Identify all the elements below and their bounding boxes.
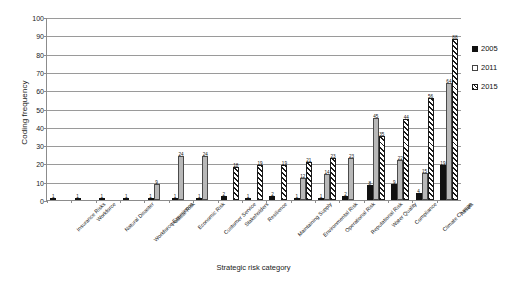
bar-2005: 1 xyxy=(50,198,56,200)
bar-value-label: 2 xyxy=(271,192,274,197)
bar-group: 1 xyxy=(71,18,95,200)
bar-2011: 24 xyxy=(178,156,184,200)
bar-group: 19 xyxy=(144,18,168,200)
y-axis-tick-label: 70 xyxy=(36,69,44,76)
bar-2011: 24 xyxy=(202,156,208,200)
legend-item-label: 2015 xyxy=(481,82,498,91)
bar-value-label: 1 xyxy=(101,194,104,199)
x-axis-category-label: Natural Disaster xyxy=(124,201,156,233)
bar-value-label: 8 xyxy=(369,181,372,186)
bar-group: 223 xyxy=(339,18,363,200)
bar-value-label: 1 xyxy=(125,194,128,199)
bar-value-label: 19 xyxy=(440,161,445,166)
bar-value-label: 1 xyxy=(52,194,55,199)
bar-2015: 56 xyxy=(428,98,434,200)
x-axis-title: Strategic risk category xyxy=(46,263,461,272)
plot-area: 0102030405060708090100 11111912412421811… xyxy=(46,18,461,201)
x-axis-category-label: Assets xyxy=(459,201,475,217)
bar-2015: 21 xyxy=(306,162,312,200)
bar-2015: 35 xyxy=(379,136,385,200)
bar-group: 41556 xyxy=(412,18,436,200)
chart-legend: 200520112015 xyxy=(472,44,528,101)
bar-value-label: 44 xyxy=(404,115,409,120)
bar-value-label: 14 xyxy=(325,170,330,175)
bar-value-label: 35 xyxy=(379,132,384,137)
bar-2015: 44 xyxy=(403,119,409,200)
bar-value-label: 64 xyxy=(446,79,451,84)
bar-2011: 23 xyxy=(348,158,354,200)
bar-value-label: 19 xyxy=(257,161,262,166)
bar-2015: 19 xyxy=(257,165,263,200)
bar-group: 124 xyxy=(193,18,217,200)
bar-value-label: 1 xyxy=(174,194,177,199)
bar-groups: 1111191241242181192191122111423223845359… xyxy=(47,18,461,200)
legend-item-label: 2011 xyxy=(481,63,497,72)
bar-group: 11423 xyxy=(315,18,339,200)
bar-value-label: 18 xyxy=(233,163,238,168)
y-axis-title: Coding frequency xyxy=(20,43,29,183)
bar-2005: 1 xyxy=(245,198,251,200)
bar-group: 1 xyxy=(120,18,144,200)
bar-value-label: 1 xyxy=(247,194,250,199)
bar-group: 124 xyxy=(169,18,193,200)
bar-2005: 2 xyxy=(269,196,275,200)
bar-value-label: 1 xyxy=(149,194,152,199)
bar-group: 84535 xyxy=(364,18,388,200)
y-axis-tick-label: 100 xyxy=(32,15,44,22)
y-axis-tick-label: 30 xyxy=(36,143,44,150)
bar-group: 1 xyxy=(96,18,120,200)
bar-value-label: 1 xyxy=(76,194,79,199)
bar-value-label: 1 xyxy=(198,194,201,199)
bar-2015: 18 xyxy=(233,167,239,200)
y-axis-tick-label: 10 xyxy=(36,179,44,186)
y-axis-tick-label: 80 xyxy=(36,51,44,58)
bar-group: 196488 xyxy=(437,18,461,200)
bar-group: 119 xyxy=(242,18,266,200)
bar-2005: 1 xyxy=(75,198,81,200)
bar-value-label: 45 xyxy=(373,114,378,119)
x-axis-category-label: Political Risk xyxy=(170,201,196,227)
bar-value-label: 4 xyxy=(417,189,420,194)
bar-value-label: 1 xyxy=(320,194,323,199)
bar-group: 11221 xyxy=(291,18,315,200)
x-axis-category-label: Economic Risk xyxy=(196,201,225,230)
bar-value-label: 88 xyxy=(452,35,457,40)
y-axis-tick-label: 20 xyxy=(36,161,44,168)
bar-value-label: 22 xyxy=(398,156,403,161)
bar-2005: 1 xyxy=(123,198,129,200)
legend-item-label: 2005 xyxy=(481,44,498,53)
legend-item-2011[interactable]: 2011 xyxy=(472,63,528,72)
bar-2015: 23 xyxy=(330,158,336,200)
bar-value-label: 19 xyxy=(282,161,287,166)
bar-2015: 88 xyxy=(452,39,458,200)
bar-group: 218 xyxy=(218,18,242,200)
bar-value-label: 2 xyxy=(222,192,225,197)
y-axis-tick-label: 50 xyxy=(36,106,44,113)
bar-value-label: 24 xyxy=(203,152,208,157)
bar-group: 219 xyxy=(266,18,290,200)
bar-2011: 9 xyxy=(154,184,160,200)
y-axis-tick-label: 60 xyxy=(36,88,44,95)
y-axis-tick-label: 40 xyxy=(36,124,44,131)
bar-group: 92244 xyxy=(388,18,412,200)
bar-value-label: 23 xyxy=(331,154,336,159)
legend-swatch-icon xyxy=(472,84,478,90)
bar-value-label: 9 xyxy=(155,180,158,185)
x-axis-category-labels: Insurance RisksWorkforceNatural Disaster… xyxy=(46,201,461,261)
legend-swatch-icon xyxy=(472,65,478,71)
bar-value-label: 15 xyxy=(422,169,427,174)
bar-value-label: 56 xyxy=(428,94,433,99)
legend-item-2005[interactable]: 2005 xyxy=(472,44,528,53)
bar-value-label: 2 xyxy=(344,192,347,197)
bar-value-label: 9 xyxy=(393,180,396,185)
bar-value-label: 23 xyxy=(349,154,354,159)
bar-value-label: 24 xyxy=(178,152,183,157)
bar-group: 1 xyxy=(47,18,71,200)
legend-swatch-icon xyxy=(472,46,478,52)
y-axis-tick-label: 90 xyxy=(36,33,44,40)
bar-chart: Coding frequency 0102030405060708090100 … xyxy=(0,0,532,285)
legend-item-2015[interactable]: 2015 xyxy=(472,82,528,91)
bar-value-label: 12 xyxy=(300,174,305,179)
bar-value-label: 21 xyxy=(306,158,311,163)
bar-value-label: 1 xyxy=(295,194,298,199)
